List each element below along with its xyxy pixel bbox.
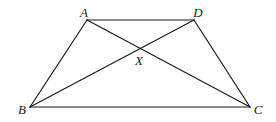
vertex-label-c: C: [254, 103, 263, 116]
segment-ab: [30, 20, 87, 107]
vertex-label-b: B: [18, 103, 26, 116]
vertex-label-d: D: [193, 6, 202, 19]
trapezium-diagram: A D B C X: [0, 0, 276, 122]
intersection-label-x: X: [135, 54, 143, 67]
segment-dc: [194, 20, 250, 107]
vertex-label-a: A: [80, 6, 88, 19]
